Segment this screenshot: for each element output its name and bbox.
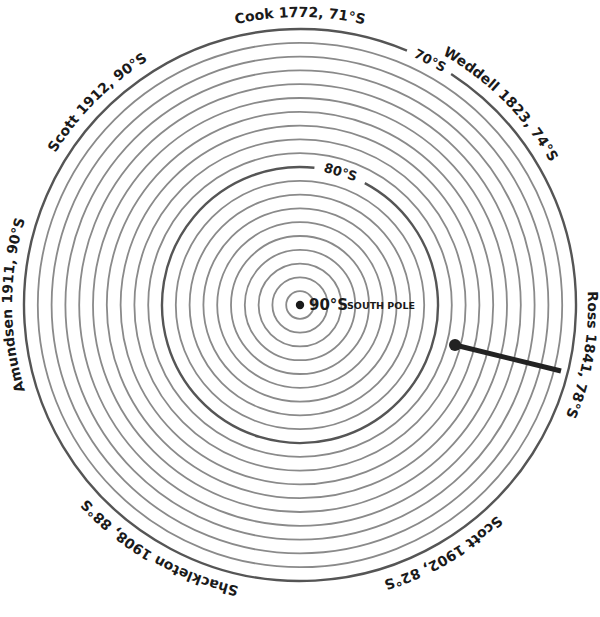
south-pole-label: SOUTH POLE: [347, 300, 415, 311]
diagram-canvas: 70°S80°S 90°S SOUTH POLE Cook 1772, 71°S…: [0, 0, 600, 617]
pole-latitude-label: 90°S: [309, 296, 348, 314]
antarctic-exploration-diagram: 70°S80°S 90°S SOUTH POLE Cook 1772, 71°S…: [0, 0, 600, 617]
south-pole-dot: [296, 301, 304, 309]
expedition-label-cook: Cook 1772, 71°S: [233, 4, 367, 27]
expedition-label-shackleton: Shackleton 1908, 88°S: [77, 497, 239, 600]
expedition-label-weddell: Weddell 1823, 74°S: [441, 43, 562, 164]
ross-marker-dot: [449, 339, 461, 351]
expedition-label-ross: Ross 1841, 78°S: [563, 291, 600, 421]
